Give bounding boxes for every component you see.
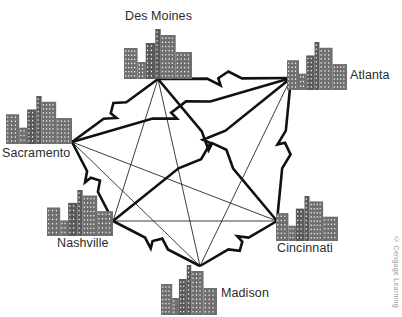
city-label-des_moines: Des Moines xyxy=(125,9,192,23)
building xyxy=(172,298,179,315)
building xyxy=(97,211,113,236)
copyright-credit: © Cengage Learning xyxy=(393,236,400,308)
building xyxy=(146,43,156,79)
network-diagram: Des MoinesAtlantaSacramentoNashvilleCinc… xyxy=(0,0,402,317)
skyline-atlanta xyxy=(287,42,347,90)
building xyxy=(179,279,187,315)
building xyxy=(155,29,160,79)
building xyxy=(56,118,72,144)
link-nashville-madison xyxy=(113,221,200,266)
skylines-layer xyxy=(6,29,347,315)
building xyxy=(60,220,68,236)
link-atlanta-nashville xyxy=(113,78,291,221)
building xyxy=(42,102,57,144)
building xyxy=(276,213,288,241)
skyline-des_moines xyxy=(124,29,192,79)
city-label-sacramento: Sacramento xyxy=(2,146,70,160)
building xyxy=(36,96,41,144)
building xyxy=(27,109,36,144)
building xyxy=(47,207,60,236)
building xyxy=(176,52,192,79)
skyline-sacramento xyxy=(6,96,72,144)
city-label-nashville: Nashville xyxy=(57,236,109,250)
building xyxy=(299,74,306,90)
building xyxy=(77,190,82,236)
link-sacramento-atlanta xyxy=(72,78,291,142)
building xyxy=(306,55,314,90)
building xyxy=(305,196,310,241)
link-sacramento-des_moines xyxy=(72,79,158,142)
link-cincinnati-madison xyxy=(200,221,277,266)
skyline-nashville xyxy=(47,190,113,236)
building xyxy=(19,128,27,144)
building xyxy=(288,226,295,241)
building xyxy=(333,64,347,90)
skyline-cincinnati xyxy=(276,196,338,241)
link-atlanta-cincinnati xyxy=(277,78,291,221)
building xyxy=(319,48,332,90)
building xyxy=(315,42,320,90)
skyline-madison xyxy=(161,265,217,315)
city-label-atlanta: Atlanta xyxy=(350,68,390,82)
city-label-cincinnati: Cincinnati xyxy=(277,241,333,255)
building xyxy=(204,288,217,315)
link-des_moines-nashville xyxy=(113,79,158,221)
city-label-madison: Madison xyxy=(221,286,269,300)
